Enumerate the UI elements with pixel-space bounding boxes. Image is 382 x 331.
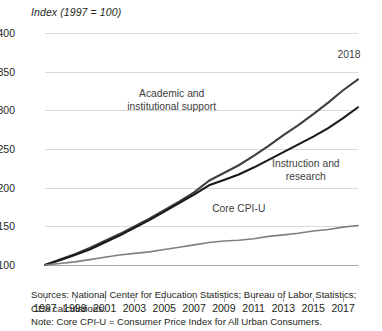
annotation-line: research <box>272 171 340 184</box>
x-axis-line <box>45 265 358 266</box>
series-annotation: Core CPI-U <box>212 203 265 216</box>
y-axis-tick-label: 350 <box>0 67 15 78</box>
chart-footnotes: Sources: National Center for Education S… <box>31 288 376 329</box>
y-axis-tick-label: 250 <box>0 144 15 155</box>
annotation-line: 2018 <box>338 48 361 61</box>
annotation-line: Core CPI-U <box>212 203 265 216</box>
plot-area: 100150200250300350400 199719992001200320… <box>45 33 358 265</box>
y-axis-tick-label: 150 <box>0 221 15 232</box>
y-axis-tick-label: 200 <box>0 183 15 194</box>
chart-figure: Index (1997 = 100) 100150200250300350400… <box>0 0 382 331</box>
sources-line-1: Sources: National Center for Education S… <box>31 288 376 302</box>
y-axis-unit-note: Index (1997 = 100) <box>31 6 121 18</box>
y-axis-tick-label: 400 <box>0 28 15 39</box>
y-axis-tick-label: 100 <box>0 260 15 271</box>
series-line <box>45 226 358 265</box>
annotation-line: institutional support <box>127 101 216 114</box>
series-annotation: Instruction andresearch <box>272 158 340 184</box>
annotation-line: Academic and <box>127 88 216 101</box>
series-lines <box>45 33 358 265</box>
note-line: Note: Core CPI-U = Consumer Price Index … <box>31 315 376 329</box>
series-annotation: Academic andinstitutional support <box>127 88 216 114</box>
y-axis-tick-label: 300 <box>0 105 15 116</box>
annotation-line: Instruction and <box>272 158 340 171</box>
sources-line-2: CEA calculations. <box>31 302 376 316</box>
series-annotation: 2018 <box>338 48 361 61</box>
